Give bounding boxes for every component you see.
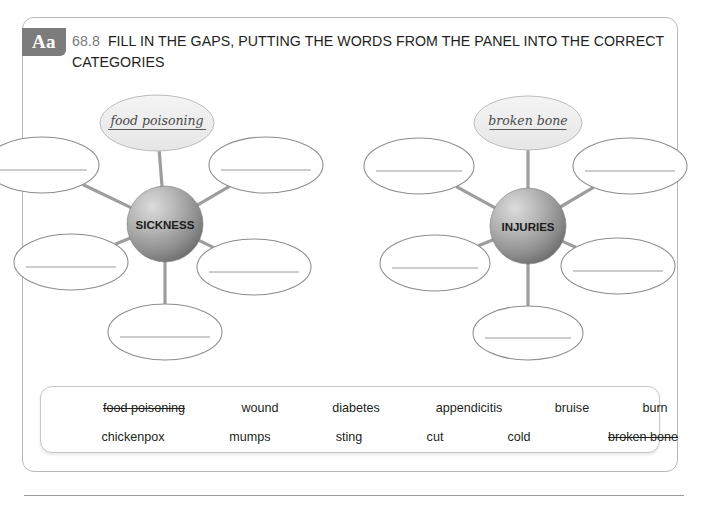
exercise-number: 68.8 — [72, 33, 100, 49]
word-bank-item[interactable]: diabetes — [332, 401, 380, 415]
exercise-instruction: FILL IN THE GAPS, PUTTING THE WORDS FROM… — [72, 33, 664, 70]
word-bank-item[interactable]: burn — [642, 401, 667, 415]
word-bank-item[interactable]: wound — [241, 401, 278, 415]
exercise-type-badge: Aa — [22, 28, 66, 56]
word-bank-item[interactable]: cold — [507, 430, 530, 444]
word-bank-panel: food poisoningwounddiabetesappendicitisb… — [40, 386, 660, 453]
page-bottom-rule — [24, 495, 684, 496]
exercise-heading: 68.8 FILL IN THE GAPS, PUTTING THE WORDS… — [72, 31, 672, 73]
word-bank-item[interactable]: mumps — [229, 430, 270, 444]
word-bank-item[interactable]: cut — [427, 430, 444, 444]
word-bank-row: food poisoningwounddiabetesappendicitisb… — [41, 397, 659, 419]
word-bank-item[interactable]: food poisoning — [103, 401, 185, 415]
word-bank-item[interactable]: broken bone — [608, 430, 678, 444]
word-bank-item[interactable]: sting — [336, 430, 363, 444]
word-bank-item[interactable]: appendicitis — [436, 401, 503, 415]
word-bank-item[interactable]: chickenpox — [101, 430, 164, 444]
word-bank-row: chickenpoxmumpsstingcutcoldbroken bone — [41, 426, 659, 448]
word-bank-item[interactable]: bruise — [555, 401, 589, 415]
